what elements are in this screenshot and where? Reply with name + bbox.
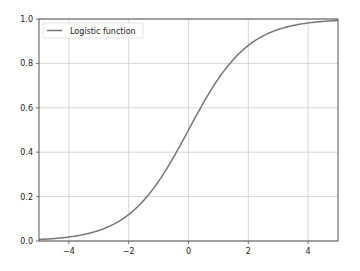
y-tick-label: 0.8 xyxy=(20,59,33,68)
y-tick-label: 0.4 xyxy=(20,148,33,157)
y-tick-label: 0.2 xyxy=(20,193,33,202)
y-tick-label: 1.0 xyxy=(20,15,33,24)
x-tick-label: −4 xyxy=(63,247,75,256)
y-tick-label: 0.0 xyxy=(20,237,33,246)
x-tick-label: 4 xyxy=(306,247,311,256)
legend: Logistic function xyxy=(43,23,143,38)
legend-label: Logistic function xyxy=(70,27,136,36)
logistic-chart: −4−2024 0.00.20.40.60.81.0 Logistic func… xyxy=(0,0,360,271)
x-tick-label: −2 xyxy=(123,247,135,256)
x-axis-ticks: −4−2024 xyxy=(63,241,311,256)
y-tick-label: 0.6 xyxy=(20,104,33,113)
x-tick-label: 2 xyxy=(246,247,251,256)
y-axis-ticks: 0.00.20.40.60.81.0 xyxy=(20,15,39,246)
x-tick-label: 0 xyxy=(186,247,191,256)
